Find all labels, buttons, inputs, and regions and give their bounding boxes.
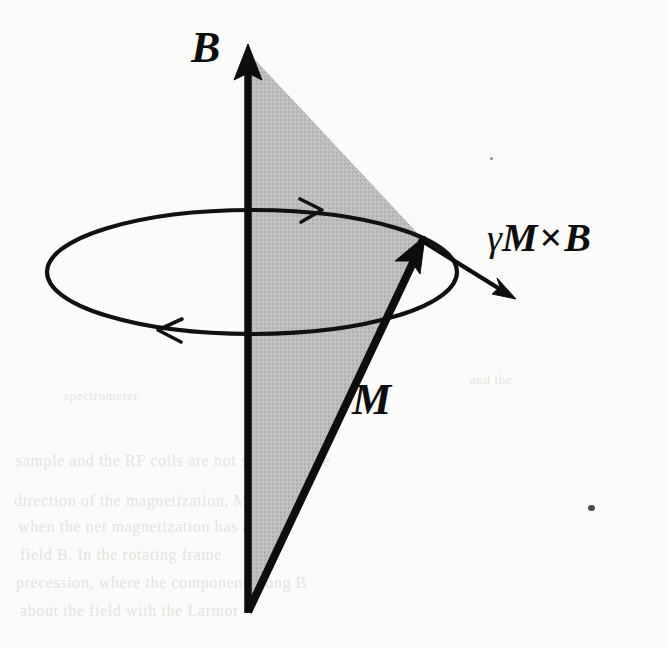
torque-m-symbol: M xyxy=(502,215,538,260)
gamma-symbol: γ xyxy=(487,217,502,259)
torque-b-symbol: B xyxy=(564,215,591,260)
torque-vector-label: γM×B xyxy=(487,218,591,258)
b-field-label: B xyxy=(191,26,220,70)
precession-diagram xyxy=(0,0,667,649)
cross-product-symbol: × xyxy=(538,215,565,260)
m-vector-label: M xyxy=(352,378,391,422)
figure-page: spectrometer and the sample and the RF c… xyxy=(0,0,667,649)
